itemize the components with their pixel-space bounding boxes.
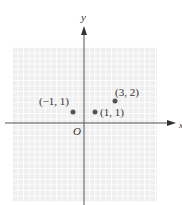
x-axis-label: x xyxy=(179,120,182,131)
coordinate-plane: y x O (−1, 1) (1, 1) (3, 2) xyxy=(0,0,182,205)
point-3-2 xyxy=(113,99,118,104)
x-axis-arrow-icon xyxy=(167,120,176,126)
axes-layer xyxy=(0,0,182,205)
point-neg1-1 xyxy=(71,110,76,115)
y-axis-arrow-icon xyxy=(81,26,87,35)
y-axis-label: y xyxy=(81,12,86,23)
origin-label: O xyxy=(73,126,81,137)
point-1-1 xyxy=(93,110,98,115)
point-label-3-2: (3, 2) xyxy=(115,87,139,98)
point-label-1-1: (1, 1) xyxy=(100,107,124,118)
point-label-neg1-1: (−1, 1) xyxy=(39,96,69,107)
